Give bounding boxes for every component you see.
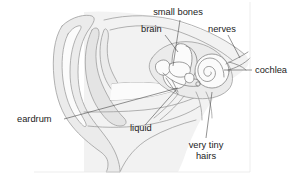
label-brain: brain xyxy=(141,24,162,34)
ear-anatomy-diagram: small bones brain nerves cochlea eardrum… xyxy=(0,0,298,181)
stapes-bone xyxy=(185,73,194,83)
label-small-bones: small bones xyxy=(153,7,203,17)
label-very-tiny-hairs-line1: very tiny xyxy=(189,140,224,150)
label-liquid: liquid xyxy=(130,123,152,133)
diagram-canvas: small bones brain nerves cochlea eardrum… xyxy=(0,0,298,181)
label-eardrum: eardrum xyxy=(17,114,52,124)
label-nerves: nerves xyxy=(208,24,236,34)
label-cochlea: cochlea xyxy=(255,65,288,75)
label-very-tiny-hairs-line2: hairs xyxy=(196,151,217,161)
